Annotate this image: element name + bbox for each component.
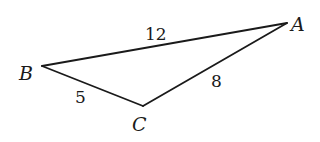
- vertex-label-c: C: [132, 113, 147, 135]
- vertex-label-a: A: [289, 13, 305, 35]
- edge-label-ac: 8: [211, 71, 222, 91]
- edge-bc: [42, 66, 143, 106]
- triangle-diagram: A B C 12 8 5: [0, 0, 320, 142]
- edge-label-bc: 5: [75, 87, 86, 107]
- vertex-label-b: B: [18, 62, 33, 84]
- edge-label-ba: 12: [145, 24, 167, 44]
